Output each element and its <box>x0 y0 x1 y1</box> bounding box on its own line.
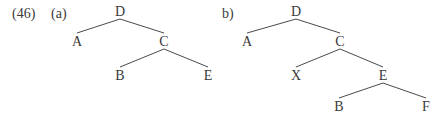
tree-node-d: D <box>291 4 301 19</box>
tree-diagrams: DACBE DACXEBF <box>0 0 445 120</box>
tree-node-c: C <box>159 34 168 49</box>
tree-edge <box>164 49 208 67</box>
tree-node-d: D <box>115 4 125 19</box>
tree-edge <box>120 49 164 67</box>
tree-edge <box>247 19 296 33</box>
tree-edge <box>120 19 164 33</box>
tree-node-a: A <box>242 34 253 49</box>
tree-node-b: B <box>334 99 343 114</box>
tree-edge <box>383 83 426 98</box>
tree-edge <box>340 49 383 67</box>
tree-node-e: E <box>379 68 388 83</box>
tree-node-x: X <box>291 68 301 83</box>
tree-b: DACXEBF <box>242 4 430 114</box>
tree-edge <box>296 19 340 33</box>
tree-edge <box>339 83 383 98</box>
tree-edge <box>77 19 120 33</box>
tree-edge <box>296 49 340 67</box>
tree-node-e: E <box>204 68 213 83</box>
tree-node-f: F <box>422 99 430 114</box>
tree-node-b: B <box>115 68 124 83</box>
tree-node-a: A <box>72 34 83 49</box>
tree-a: DACBE <box>72 4 212 83</box>
tree-node-c: C <box>335 34 344 49</box>
